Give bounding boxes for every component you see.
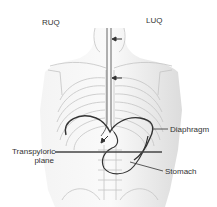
transpyloric-plane-label: Transpyloric plane [12, 147, 54, 165]
transpyloric-label-line2: plane [12, 156, 54, 165]
transpyloric-label-line1: Transpyloric [12, 147, 54, 156]
luq-label: LUQ [146, 16, 162, 25]
ruq-label: RUQ [42, 18, 60, 27]
stomach-label: Stomach [165, 167, 197, 176]
diaphragm-label: Diaphragm [170, 125, 209, 134]
